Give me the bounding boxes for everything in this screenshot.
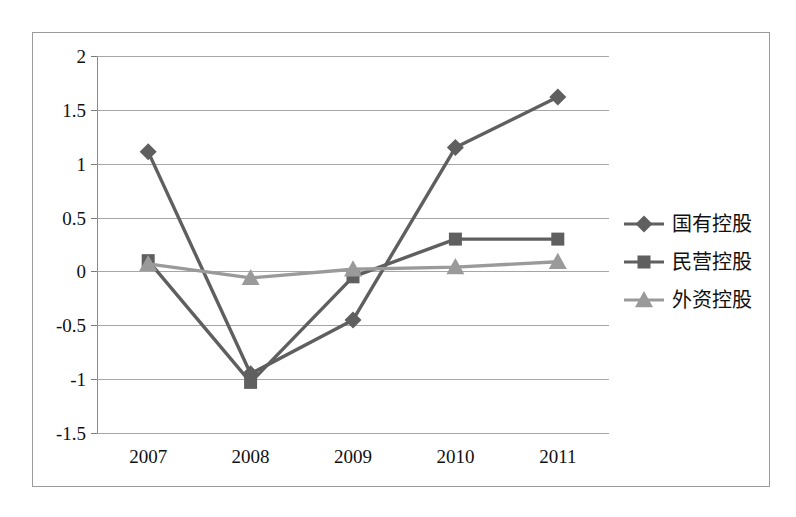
- data-point-marker: [551, 233, 564, 246]
- y-axis-tick-label: -0.5: [56, 316, 86, 335]
- chart-figure: 21.510.50-0.5-1-1.5 20072008200920102011…: [0, 0, 796, 517]
- data-point-marker: [244, 376, 257, 389]
- y-axis-tick-label: 2: [77, 47, 87, 66]
- legend-marker-square-icon: [622, 252, 666, 272]
- legend-item-diamond[interactable]: 国有控股: [622, 205, 762, 243]
- legend-key-diamond-icon: [622, 214, 666, 234]
- x-axis-tick-label: 2008: [232, 447, 270, 466]
- x-axis-tick-label: 2011: [539, 447, 576, 466]
- series-plot: [97, 56, 609, 433]
- y-axis-tick-label: 1: [77, 154, 87, 173]
- series-2: [142, 233, 565, 389]
- x-axis-tick-label: 2010: [436, 447, 474, 466]
- legend-key-triangle-icon: [622, 290, 666, 310]
- data-point-marker: [140, 143, 157, 160]
- series-1: [140, 88, 567, 382]
- plot-area: 21.510.50-0.5-1-1.5 20072008200920102011: [97, 56, 609, 433]
- y-axis-tick-label: 0: [77, 262, 87, 281]
- x-axis-tick-label: 2009: [334, 447, 372, 466]
- y-axis-tick-label: 0.5: [62, 208, 86, 227]
- legend-item-label: 国有控股: [672, 214, 752, 234]
- legend-item-label: 外资控股: [672, 290, 752, 310]
- chart-legend: 国有控股民营控股外资控股: [622, 205, 762, 319]
- y-axis-tick-mark: [91, 433, 97, 434]
- data-point-marker: [449, 233, 462, 246]
- legend-marker-triangle-icon: [622, 290, 666, 310]
- data-point-marker: [345, 311, 362, 328]
- x-axis-tick-label: 2007: [129, 447, 167, 466]
- gridline: [97, 433, 609, 434]
- data-point-marker: [447, 139, 464, 156]
- legend-item-square[interactable]: 民营控股: [622, 243, 762, 281]
- y-axis-tick-label: -1: [70, 370, 86, 389]
- y-axis-tick-label: -1.5: [56, 424, 86, 443]
- y-axis-tick-label: 1.5: [62, 100, 86, 119]
- legend-item-label: 民营控股: [672, 252, 752, 272]
- data-point-marker: [549, 88, 566, 105]
- legend-item-triangle[interactable]: 外资控股: [622, 281, 762, 319]
- legend-marker-diamond-icon: [622, 214, 666, 234]
- legend-key-square-icon: [622, 252, 666, 272]
